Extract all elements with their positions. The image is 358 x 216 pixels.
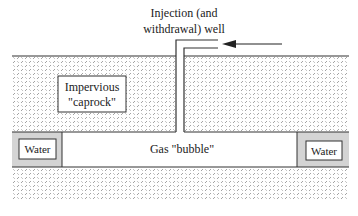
gas-bubble-label: Gas "bubble" bbox=[150, 142, 214, 156]
water-right-label: Water bbox=[311, 145, 337, 157]
caprock-layer-right bbox=[184, 56, 349, 132]
flow-arrow-icon bbox=[222, 40, 282, 48]
gas-storage-diagram: Injection (and withdrawal) well Impervio… bbox=[0, 0, 358, 216]
well-label-line1: Injection (and bbox=[151, 6, 218, 20]
bedrock-layer bbox=[12, 167, 349, 201]
well-label-line2: withdrawal) well bbox=[143, 22, 225, 36]
water-left-label: Water bbox=[25, 143, 51, 155]
well-bore bbox=[176, 40, 184, 132]
caprock-label-line1: Impervious bbox=[65, 80, 120, 94]
caprock-label-line2: "caprock" bbox=[68, 95, 116, 109]
